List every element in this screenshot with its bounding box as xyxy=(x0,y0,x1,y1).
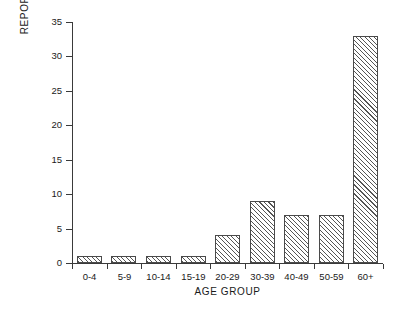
x-axis-title: AGE GROUP xyxy=(72,286,383,297)
y-axis-title: REPORTED CASES xyxy=(18,0,32,74)
bar xyxy=(250,201,275,263)
x-axis-tick xyxy=(210,264,211,269)
x-axis-tick xyxy=(72,264,73,269)
y-axis-tick-label: 15 xyxy=(22,155,62,165)
y-axis-tick-label: 5 xyxy=(22,224,62,234)
x-axis-tick-label: 60+ xyxy=(348,271,383,282)
x-axis-tick-label: 20-29 xyxy=(210,271,245,282)
bar xyxy=(181,256,206,263)
x-axis-tick-label: 40-49 xyxy=(279,271,314,282)
y-axis-tick xyxy=(66,194,72,195)
x-axis-tick xyxy=(107,264,108,269)
bar-chart: REPORTED CASES 05101520253035 0-45-910-1… xyxy=(0,0,398,312)
x-axis-line xyxy=(72,263,383,264)
y-axis-tick-label: 10 xyxy=(22,189,62,199)
y-axis-tick xyxy=(66,56,72,57)
y-axis-tick-label: 30 xyxy=(22,51,62,61)
x-axis-tick xyxy=(176,264,177,269)
x-axis-tick-label: 5-9 xyxy=(107,271,142,282)
bar xyxy=(215,235,240,263)
bar xyxy=(77,256,102,263)
x-axis-tick xyxy=(279,264,280,269)
y-axis-tick xyxy=(66,125,72,126)
y-axis-tick-label: 35 xyxy=(22,17,62,27)
bar xyxy=(353,36,378,263)
bar xyxy=(284,215,309,263)
x-axis-tick xyxy=(314,264,315,269)
bar xyxy=(146,256,171,263)
y-axis-tick-label: 25 xyxy=(22,86,62,96)
x-axis-tick xyxy=(245,264,246,269)
x-axis-tick xyxy=(141,264,142,269)
x-axis-tick-label: 30-39 xyxy=(245,271,280,282)
x-axis-tick-label: 50-59 xyxy=(314,271,349,282)
x-axis-tick xyxy=(383,264,384,269)
y-axis-tick-label: 0 xyxy=(22,258,62,268)
y-axis-line xyxy=(72,22,73,264)
bar xyxy=(111,256,136,263)
x-axis-tick xyxy=(348,264,349,269)
y-axis-tick xyxy=(66,229,72,230)
y-axis-tick xyxy=(66,22,72,23)
x-axis-tick-label: 10-14 xyxy=(141,271,176,282)
x-axis-tick-label: 15-19 xyxy=(176,271,211,282)
y-axis-tick-label: 20 xyxy=(22,120,62,130)
y-axis-tick xyxy=(66,91,72,92)
x-axis-tick-label: 0-4 xyxy=(72,271,107,282)
bar xyxy=(319,215,344,263)
y-axis-tick xyxy=(66,160,72,161)
